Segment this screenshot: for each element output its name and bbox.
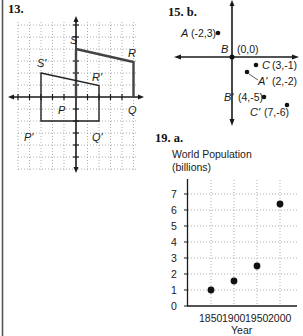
label-a: A [180,27,188,39]
point-a-prime [245,70,250,75]
leader-line [249,74,258,80]
label-s: S [70,34,78,46]
y-tick: 6 [171,204,177,216]
y-tick: 4 [171,236,177,248]
y-tick: 7 [171,188,177,200]
coord-c: (3,-1) [272,59,297,71]
chart-data-points [208,201,284,294]
up-arrow-icon [230,0,235,6]
chart-title-line2: (billions) [172,161,211,173]
left-arrow-icon [174,55,181,60]
down-arrow-icon [74,167,79,173]
coord-c-prime: (7,-6) [264,106,289,118]
chart-x-tick-labels: 1850 1900 1950 2000 [199,312,292,324]
label-q: Q [128,104,137,116]
left-arrow-icon [8,95,14,100]
label-r-prime: R' [92,71,103,83]
coord-a-prime: (2,-2) [272,75,297,87]
data-point-2000 [277,201,284,208]
problem-15b-number: 15. b. [168,5,197,19]
y-tick: 2 [171,268,177,280]
label-p: P [58,104,66,116]
label-c: C [262,59,270,71]
problem-15b-figure: 15. b. A (-2,3) B (0,0) C (3,-1) A' (2,-… [168,0,299,126]
problem-13-grid [18,22,137,170]
x-tick: 2000 [268,312,292,324]
label-q-prime: Q' [92,131,104,143]
chart-x-label: Year [231,324,253,336]
textbook-answer-page: 13. [0,0,303,336]
y-tick: 3 [171,252,177,264]
data-point-1900 [231,278,238,285]
y-tick: 5 [171,220,177,232]
problem-13-figure: 13. [8,2,144,173]
chart-y-tick-labels: 0 1 2 3 4 5 6 7 [171,188,177,312]
point-b [230,55,235,60]
point-a [216,31,221,36]
answer-figures: 13. [0,0,303,336]
problem-19a-chart: 19. a. World Population (billions) [155,131,297,336]
x-tick: 1950 [245,312,269,324]
label-c-prime: C' [250,106,261,118]
x-tick: 1850 [199,312,223,324]
point-c [254,63,259,68]
right-arrow-icon [138,95,144,100]
up-arrow-icon [74,16,79,22]
y-tick: 1 [171,284,177,296]
chart-title-line1: World Population [172,148,252,160]
data-point-1850 [208,287,215,294]
x-tick: 1900 [222,312,246,324]
y-tick: 0 [171,300,177,312]
coord-b: (0,0) [237,43,259,55]
label-b: B [221,43,228,55]
chart-gridlines [188,180,297,305]
coord-b-prime: (4,-5) [238,91,263,103]
label-a-prime: A' [257,75,268,87]
label-s-prime: S' [37,57,47,69]
label-r: R [128,47,136,59]
label-b-prime: B' [224,91,234,103]
down-arrow-icon [230,119,235,126]
data-point-1950 [254,263,261,270]
coord-a: (-2,3) [191,27,216,39]
problem-13-number: 13. [8,2,24,16]
problem-19a-number: 19. a. [155,131,183,145]
label-p-prime: P' [24,131,34,143]
